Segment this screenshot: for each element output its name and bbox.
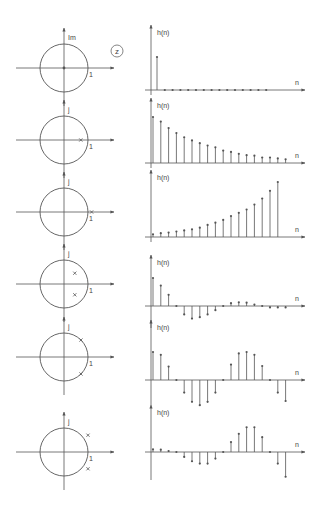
unit-label: 1	[89, 360, 93, 367]
h-axis-label: h(n)	[157, 324, 169, 332]
stem-point	[164, 89, 166, 91]
stem-point	[191, 460, 193, 462]
stem-point	[191, 228, 193, 230]
unit-label: 1	[89, 455, 93, 462]
h-axis-label: h(n)	[157, 409, 169, 417]
row-complex-outside: j1h(n)n	[16, 405, 305, 490]
stem-point	[214, 146, 216, 148]
stem-point	[183, 229, 185, 231]
stem-point	[183, 136, 185, 138]
n-axis-label: n	[295, 369, 299, 376]
stem-point	[222, 379, 224, 381]
stem-point	[246, 302, 248, 304]
stem-point	[261, 436, 263, 438]
stem-point	[168, 450, 170, 452]
stem-point	[160, 354, 162, 356]
stem-point	[238, 352, 240, 354]
stem-point	[152, 351, 154, 353]
stem-point	[238, 301, 240, 303]
stem-point	[269, 379, 271, 381]
svg-text:z: z	[115, 47, 119, 56]
stem-point	[152, 116, 154, 118]
row-real-inside: j1h(n)n	[16, 98, 305, 178]
stem-point	[214, 222, 216, 224]
pole-zero-impulse-response-figure: z Im1h(n)nj1h(n)nj1h(n)nj1h(n)nj1h(n)nj1…	[0, 0, 320, 517]
n-axis-label: n	[295, 226, 299, 233]
stem-point	[226, 89, 228, 91]
h-axis-label: h(n)	[157, 102, 169, 110]
stem-point	[160, 121, 162, 123]
stem-point	[203, 89, 205, 91]
impulse-response-plot: h(n)n	[145, 320, 305, 406]
n-axis-label: n	[295, 295, 299, 302]
stem-point	[207, 144, 209, 146]
row-real-outside: j1h(n)n	[16, 170, 305, 250]
stem-point	[277, 462, 279, 464]
stem-point	[199, 142, 201, 144]
stem-point	[285, 400, 287, 402]
n-axis-label: n	[295, 441, 299, 448]
stem-point	[269, 156, 271, 158]
stem-point	[183, 456, 185, 458]
stem-point	[222, 451, 224, 453]
stem-point	[168, 365, 170, 367]
h-axis-label: h(n)	[157, 259, 169, 267]
stem-point	[253, 354, 255, 356]
stem-point	[253, 304, 255, 306]
imag-axis-label: j	[67, 418, 70, 426]
stem-point	[222, 149, 224, 151]
stem-point	[285, 158, 287, 160]
stem-point	[160, 449, 162, 451]
stem-point	[160, 284, 162, 286]
stem-point	[261, 156, 263, 158]
stem-point	[168, 127, 170, 129]
stem-point	[269, 190, 271, 192]
stem-point	[253, 426, 255, 428]
stem-point	[230, 215, 232, 217]
stem-point	[214, 392, 216, 394]
stem-point	[246, 351, 248, 353]
stem-point	[277, 157, 279, 159]
stem-point	[187, 89, 189, 91]
stem-point	[207, 401, 209, 403]
stem-point	[211, 89, 213, 91]
stem-point	[242, 89, 244, 91]
stem-point	[179, 89, 181, 91]
pole-marker	[86, 467, 89, 470]
pole-marker	[79, 338, 82, 341]
stem-point	[253, 155, 255, 157]
z-plane-symbol: z	[111, 45, 123, 57]
stem-point	[168, 294, 170, 296]
impulse-response-plot: h(n)n	[145, 98, 305, 168]
stem-point	[175, 451, 177, 453]
stem-point	[246, 208, 248, 210]
stem-point	[183, 392, 185, 394]
stem-point	[172, 89, 174, 91]
stem-point	[285, 306, 287, 308]
stem-point	[234, 89, 236, 91]
impulse-response-plot: h(n)n	[145, 25, 305, 95]
stem-point	[257, 89, 259, 91]
stem-point	[199, 316, 201, 318]
stem-point	[152, 448, 154, 450]
stem-point	[261, 197, 263, 199]
stem-point	[191, 318, 193, 320]
stem-point	[222, 305, 224, 307]
pole-marker	[73, 293, 76, 296]
stem-point	[238, 153, 240, 155]
stem-point	[246, 426, 248, 428]
impulse-response-plot: h(n)n	[145, 255, 305, 328]
stem-point	[269, 451, 271, 453]
unit-label: 1	[89, 287, 93, 294]
imag-axis-label: j	[67, 106, 70, 114]
z-plane-plot: j1	[16, 244, 114, 322]
unit-label: 1	[89, 143, 93, 150]
imag-axis-label: j	[67, 323, 70, 331]
stem-point	[230, 441, 232, 443]
stem-point	[214, 458, 216, 460]
stem-point	[207, 462, 209, 464]
h-axis-label: h(n)	[157, 29, 169, 37]
stem-point	[175, 305, 177, 307]
stem-point	[152, 277, 154, 279]
stem-point	[269, 306, 271, 308]
